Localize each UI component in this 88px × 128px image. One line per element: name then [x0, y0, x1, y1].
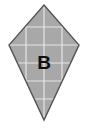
shape-label-b: B	[37, 52, 51, 73]
geometry-figure: B	[0, 0, 88, 128]
figure-canvas: B	[0, 0, 88, 128]
